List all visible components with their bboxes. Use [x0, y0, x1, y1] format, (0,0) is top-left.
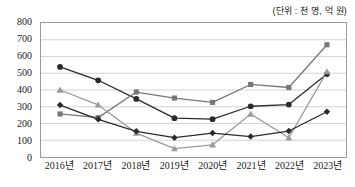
data-point-square	[57, 111, 62, 116]
data-point-square	[286, 85, 291, 90]
series-line-triangle	[60, 72, 327, 149]
data-point-circle	[286, 102, 292, 108]
unit-note-label: (단위 : 천 명, 억 원)	[273, 4, 348, 17]
x-axis-tick-label: 2018년	[121, 161, 150, 171]
data-point-square	[134, 89, 139, 94]
y-axis-tick-label: 600	[17, 51, 32, 61]
data-point-diamond	[171, 134, 178, 141]
x-axis-tick-label: 2017년	[83, 161, 112, 171]
line-chart: (단위 : 천 명, 억 원) 800700600500400300200100…	[0, 0, 355, 187]
series-line-diamond	[60, 105, 327, 138]
series-line-circle	[60, 67, 327, 119]
y-axis-tick-label: 100	[17, 136, 32, 146]
data-point-square	[324, 42, 329, 47]
y-axis-tick-label: 700	[17, 34, 32, 44]
x-axis-tick-label: 2021년	[237, 161, 266, 171]
series-layer	[41, 23, 346, 157]
data-point-triangle	[323, 68, 330, 74]
data-point-square	[172, 95, 177, 100]
data-point-diamond	[247, 133, 254, 140]
data-point-square	[210, 100, 215, 105]
y-axis-tick-label: 200	[17, 119, 32, 129]
y-axis: 8007006005004003002001000	[0, 22, 36, 158]
data-point-diamond	[209, 130, 216, 137]
data-point-diamond	[57, 102, 64, 109]
data-point-triangle	[247, 111, 254, 117]
data-point-triangle	[57, 87, 64, 93]
data-point-circle	[133, 96, 139, 102]
data-point-circle	[172, 115, 178, 121]
y-axis-tick-label: 0	[27, 153, 32, 163]
y-axis-tick-label: 500	[17, 68, 32, 78]
x-axis-tick-label: 2023년	[313, 161, 342, 171]
data-point-circle	[57, 64, 63, 70]
x-axis-tick-label: 2019년	[160, 161, 189, 171]
y-axis-tick-label: 300	[17, 102, 32, 112]
data-point-circle	[95, 77, 101, 83]
y-axis-tick-label: 800	[17, 17, 32, 27]
data-point-square	[248, 82, 253, 87]
y-axis-tick-label: 400	[17, 85, 32, 95]
x-axis: 2016년2017년2018년2019년2020년2021년2022년2023년	[40, 161, 347, 181]
x-axis-tick-label: 2020년	[198, 161, 227, 171]
data-point-triangle	[285, 134, 292, 140]
plot-area	[40, 22, 347, 158]
data-point-circle	[210, 116, 216, 122]
data-point-diamond	[324, 109, 331, 116]
x-axis-tick-label: 2022년	[275, 161, 304, 171]
data-point-circle	[248, 103, 254, 109]
x-axis-tick-label: 2016년	[45, 161, 74, 171]
